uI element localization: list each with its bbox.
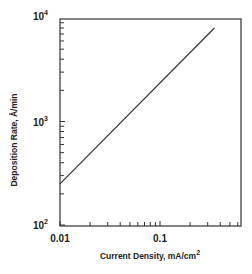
data-series [60, 28, 214, 184]
y-tick-label: 103 [33, 115, 48, 128]
y-axis-ticks [60, 23, 65, 225]
x-axis-tick-labels: 0.010.1 [50, 233, 167, 244]
x-axis-label: Current Density, mA/cm2 [100, 249, 200, 261]
x-tick-label: 0.01 [50, 233, 70, 244]
y-axis-tick-labels: 102103104 [33, 9, 48, 231]
x-axis-ticks [60, 221, 238, 226]
y-tick-label: 102 [33, 218, 48, 231]
y-axis-label: Deposition Rate, Å/min [9, 93, 19, 186]
y-tick-label: 104 [33, 9, 48, 22]
chart: 102103104 0.010.1 Current Density, mA/cm… [0, 0, 252, 274]
plot-frame [60, 19, 241, 226]
series-line [60, 28, 214, 184]
x-tick-label: 0.1 [153, 233, 167, 244]
